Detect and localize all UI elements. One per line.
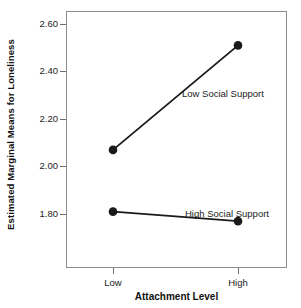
- series-annotation-high-social-support: High Social Support: [185, 208, 269, 219]
- data-point-marker: [109, 146, 118, 155]
- series-plot-layer: [0, 0, 301, 308]
- estimated-marginal-means-chart: Estimated Marginal Means for Loneliness …: [0, 0, 301, 308]
- data-point-marker: [234, 41, 243, 50]
- data-point-marker: [109, 207, 118, 216]
- series-annotation-low-social-support: Low Social Support: [182, 88, 264, 99]
